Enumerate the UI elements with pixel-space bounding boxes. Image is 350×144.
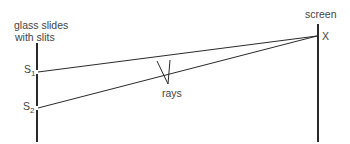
point-x-label: X [322,31,329,42]
screen-label: screen [305,9,337,20]
slit-s2-label: S2 [23,101,34,113]
slides-label-line1: glass slides [14,20,68,31]
slit-s1-subscript: 1 [31,69,35,78]
slit-s2-subscript: 2 [30,106,34,115]
rays-label: rays [162,88,182,99]
ray-s1 [38,36,317,72]
slit-s1-label: S1 [24,64,35,76]
slit-s1-letter: S [24,63,31,75]
slides-label-line2: with slits [15,32,55,43]
slit-s2-letter: S [23,100,30,112]
rays-pointer [157,60,170,84]
